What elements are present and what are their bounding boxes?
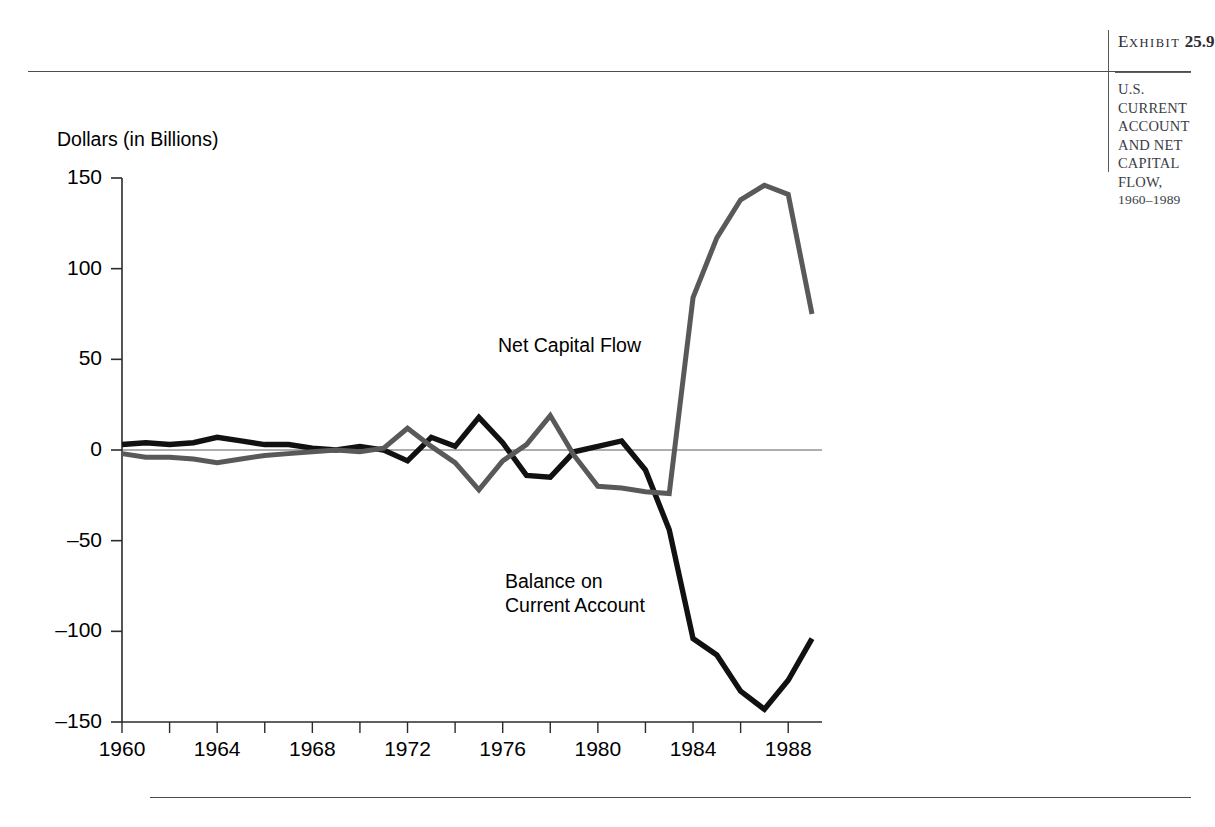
x-axis-tick-label: 1988 [743, 737, 833, 761]
exhibit-title-line-1: U.S. CURRENT [1118, 80, 1194, 117]
line-chart [0, 0, 900, 800]
exhibit-title-line-2: ACCOUNT AND NET [1118, 117, 1194, 154]
y-axis-tick-label: 100 [20, 256, 102, 280]
exhibit-underline-rule [1115, 72, 1191, 73]
x-axis-tick-label: 1976 [458, 737, 548, 761]
exhibit-number: 25.9 [1185, 32, 1215, 51]
exhibit-title-line-3: CAPITAL FLOW, [1118, 154, 1194, 191]
x-axis-tick-label: 1972 [363, 737, 453, 761]
chart-container: Dollars (in Billions) 150100500–50–100–1… [0, 0, 900, 800]
x-axis-tick-label: 1960 [77, 737, 167, 761]
exhibit-label-word: XHIBIT [1129, 36, 1180, 50]
series-line-net-capital-flow [122, 185, 812, 493]
x-axis-tick-label: 1968 [267, 737, 357, 761]
x-axis-tick-label: 1964 [172, 737, 262, 761]
annotation-net-capital-flow: Net Capital Flow [498, 333, 641, 357]
y-axis-tick-label: 150 [20, 165, 102, 189]
y-axis-tick-label: –50 [20, 528, 102, 552]
source-note [196, 812, 896, 827]
y-axis-tick-label-zero: 0 [20, 437, 102, 461]
y-axis-tick-label: 50 [20, 346, 102, 370]
y-axis-tick-label: –150 [20, 709, 102, 733]
y-axis-title: Dollars (in Billions) [57, 128, 218, 151]
exhibit-title-years: 1960–1989 [1118, 191, 1194, 210]
y-axis-tick-label: –100 [20, 618, 102, 642]
annotation-balance-on-current-account: Balance onCurrent Account [505, 569, 645, 617]
x-axis-tick-label: 1984 [648, 737, 738, 761]
exhibit-label-prefix: E [1118, 32, 1129, 51]
exhibit-caption-block: EXHIBIT 25.9 [1108, 30, 1191, 52]
exhibit-title: U.S. CURRENT ACCOUNT AND NET CAPITAL FLO… [1108, 80, 1194, 210]
x-axis-tick-label: 1980 [553, 737, 643, 761]
exhibit-label: EXHIBIT 25.9 [1108, 30, 1191, 52]
